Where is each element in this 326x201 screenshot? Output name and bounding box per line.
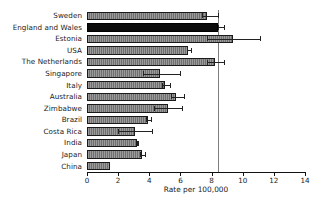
x-axis-line bbox=[87, 172, 305, 173]
bar bbox=[87, 46, 188, 54]
bar bbox=[87, 162, 110, 170]
x-tick-label: 8 bbox=[209, 177, 214, 184]
bar-row bbox=[87, 162, 305, 170]
error-cap-high bbox=[145, 152, 146, 157]
category-label: The Netherlands bbox=[22, 58, 82, 65]
category-label: Singapore bbox=[45, 70, 82, 77]
category-label: Australia bbox=[50, 93, 82, 100]
bar-row bbox=[87, 12, 305, 20]
error-bar bbox=[162, 85, 170, 86]
x-tick-label: 14 bbox=[300, 177, 309, 184]
bar bbox=[87, 23, 218, 31]
error-cap-high bbox=[224, 60, 225, 65]
error-cap-low bbox=[187, 48, 188, 53]
error-bar bbox=[143, 74, 180, 75]
bar-row bbox=[87, 46, 305, 54]
error-cap-low bbox=[140, 152, 141, 157]
category-label: China bbox=[61, 163, 82, 170]
category-label: Italy bbox=[66, 82, 82, 89]
error-bar bbox=[202, 16, 218, 17]
error-cap-low bbox=[171, 94, 172, 99]
bar bbox=[87, 93, 176, 101]
error-cap-high bbox=[182, 106, 183, 111]
category-axis-labels: SwedenEngland and WalesEstoniaUSAThe Net… bbox=[0, 10, 85, 172]
bar-row bbox=[87, 23, 305, 31]
error-cap-low bbox=[162, 83, 163, 88]
bar bbox=[87, 12, 207, 20]
bar bbox=[87, 81, 165, 89]
error-cap-high bbox=[191, 48, 192, 53]
x-tick-label: 4 bbox=[147, 177, 152, 184]
error-cap-high bbox=[260, 36, 261, 41]
x-tick-label: 2 bbox=[116, 177, 121, 184]
error-cap-low bbox=[218, 25, 219, 30]
error-bar bbox=[118, 131, 152, 132]
bar-row bbox=[87, 150, 305, 158]
error-bar bbox=[171, 97, 183, 98]
category-label: Japan bbox=[62, 151, 82, 158]
bar bbox=[87, 116, 148, 124]
error-cap-low bbox=[143, 71, 144, 76]
error-cap-low bbox=[207, 36, 208, 41]
error-cap-high bbox=[152, 129, 153, 134]
bar-chart-figure: SwedenEngland and WalesEstoniaUSAThe Net… bbox=[0, 0, 326, 201]
bar bbox=[87, 58, 215, 66]
bar-row bbox=[87, 116, 305, 124]
bar-row bbox=[87, 104, 305, 112]
x-tick-label: 12 bbox=[269, 177, 278, 184]
bar-row bbox=[87, 139, 305, 147]
error-cap-high bbox=[151, 117, 152, 122]
error-bar bbox=[154, 108, 182, 109]
error-bar bbox=[207, 62, 224, 63]
bar bbox=[87, 150, 142, 158]
x-tick-label: 6 bbox=[178, 177, 183, 184]
error-cap-low bbox=[118, 129, 119, 134]
error-cap-low bbox=[202, 13, 203, 18]
error-cap-high bbox=[180, 71, 181, 76]
bar-row bbox=[87, 35, 305, 43]
error-cap-low bbox=[207, 60, 208, 65]
bar-row bbox=[87, 81, 305, 89]
category-label: Estonia bbox=[55, 35, 82, 42]
category-label: India bbox=[64, 139, 82, 146]
error-cap-low bbox=[146, 117, 147, 122]
error-cap-low bbox=[154, 106, 155, 111]
category-label: USA bbox=[67, 47, 82, 54]
error-cap-high bbox=[224, 25, 225, 30]
bar bbox=[87, 139, 137, 147]
error-bar bbox=[207, 39, 260, 40]
error-cap-high bbox=[138, 141, 139, 146]
error-cap-high bbox=[184, 94, 185, 99]
bar-row bbox=[87, 93, 305, 101]
bar-row bbox=[87, 127, 305, 135]
bar-row bbox=[87, 58, 305, 66]
x-tick-label: 0 bbox=[85, 177, 90, 184]
category-label: Costa Rica bbox=[43, 128, 82, 135]
bar-row bbox=[87, 69, 305, 77]
x-axis-title: Rate per 100,000 bbox=[87, 186, 305, 194]
category-label: England and Wales bbox=[13, 24, 82, 31]
error-cap-high bbox=[218, 13, 219, 18]
category-label: Sweden bbox=[53, 12, 82, 19]
category-label: Brazil bbox=[62, 116, 82, 123]
category-label: Zimbabwe bbox=[44, 105, 82, 112]
error-cap-high bbox=[170, 83, 171, 88]
x-tick-label: 10 bbox=[238, 177, 247, 184]
plot-area bbox=[87, 10, 305, 172]
